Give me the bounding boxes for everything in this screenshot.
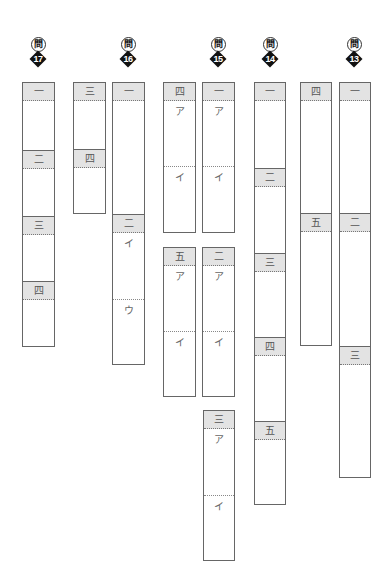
sub-label: ア bbox=[164, 266, 195, 283]
question-badge-15: 問 15 bbox=[206, 37, 230, 69]
section-label: 五 bbox=[301, 214, 331, 232]
answer-subbox-q15-5-i[interactable]: イ bbox=[164, 331, 195, 397]
answer-subbox-q16-2-u[interactable]: ウ bbox=[113, 299, 144, 366]
sub-label: ウ bbox=[113, 300, 144, 317]
question-badge-14: 問 14 bbox=[258, 37, 282, 69]
question-badge-13: 問 13 bbox=[342, 37, 366, 69]
answer-subbox-q15-5-a[interactable]: ア bbox=[164, 266, 195, 330]
diamond-icon: 14 bbox=[262, 51, 278, 67]
section-label: 二 bbox=[23, 151, 54, 169]
answer-subbox-q15-1-a[interactable]: ア bbox=[203, 101, 234, 165]
question-number: 17 bbox=[30, 51, 46, 67]
answer-box-q13-1[interactable]: 一 bbox=[340, 83, 370, 213]
answer-box-q14-2[interactable]: 二 bbox=[255, 168, 285, 254]
answer-subbox-q15-3-i[interactable]: イ bbox=[204, 495, 234, 561]
section-label: 一 bbox=[340, 83, 370, 101]
answer-column-q15-1: 一 ア イ bbox=[202, 82, 235, 233]
answer-column-q16b: 一 二 イ ウ bbox=[112, 82, 145, 365]
section-label: 四 bbox=[301, 83, 331, 101]
section-label: 二 bbox=[255, 169, 285, 187]
answer-box-q14-5[interactable]: 五 bbox=[255, 421, 285, 505]
section-label: 五 bbox=[255, 422, 285, 440]
question-prefix: 問 bbox=[263, 37, 278, 52]
answer-box-q17-2[interactable]: 二 bbox=[23, 150, 54, 217]
section-label: 四 bbox=[74, 150, 105, 168]
question-prefix: 問 bbox=[121, 37, 136, 52]
answer-column-q13a: 四 五 bbox=[300, 82, 332, 346]
answer-box-q15-4[interactable]: 四 ア イ bbox=[164, 83, 195, 232]
question-number: 13 bbox=[346, 51, 362, 67]
answer-column-q14: 一 二 三 四 五 bbox=[254, 82, 286, 505]
sub-label: イ bbox=[164, 167, 195, 184]
answer-box-q16-2[interactable]: 二 イ ウ bbox=[113, 214, 144, 365]
sub-label: イ bbox=[203, 332, 234, 349]
section-label: 一 bbox=[203, 83, 234, 101]
question-prefix: 問 bbox=[31, 37, 46, 52]
question-prefix: 問 bbox=[347, 37, 362, 52]
diamond-icon: 17 bbox=[30, 51, 46, 67]
answer-box-q13-5[interactable]: 五 bbox=[301, 213, 331, 346]
section-label: 四 bbox=[255, 338, 285, 356]
answer-box-q13-2[interactable]: 二 bbox=[340, 213, 370, 347]
section-label: 三 bbox=[204, 411, 234, 429]
sub-label: ア bbox=[204, 429, 234, 446]
section-label: 三 bbox=[74, 83, 105, 101]
answer-column-q15-3: 三 ア イ bbox=[203, 410, 235, 561]
answer-box-q14-4[interactable]: 四 bbox=[255, 337, 285, 422]
answer-subbox-q15-4-i[interactable]: イ bbox=[164, 166, 195, 233]
answer-column-q15-5: 五 ア イ bbox=[163, 247, 196, 397]
question-number: 16 bbox=[120, 51, 136, 67]
sub-label: イ bbox=[164, 332, 195, 349]
answer-box-q14-3[interactable]: 三 bbox=[255, 253, 285, 338]
diamond-icon: 16 bbox=[120, 51, 136, 67]
section-label: 三 bbox=[23, 217, 54, 235]
answer-subbox-q15-1-i[interactable]: イ bbox=[203, 166, 234, 233]
answer-box-q17-1[interactable]: 一 bbox=[23, 83, 54, 150]
section-label: 二 bbox=[113, 215, 144, 233]
section-label: 一 bbox=[255, 83, 285, 101]
answer-box-q15-1[interactable]: 一 ア イ bbox=[203, 83, 234, 232]
question-number: 15 bbox=[210, 51, 226, 67]
section-label: 三 bbox=[255, 254, 285, 272]
answer-subbox-q15-2-i[interactable]: イ bbox=[203, 331, 234, 397]
answer-column-q17: 一 二 三 四 bbox=[22, 82, 55, 347]
section-label: 三 bbox=[340, 347, 370, 365]
sub-label: ア bbox=[203, 266, 234, 283]
answer-column-q15-4: 四 ア イ bbox=[163, 82, 196, 233]
question-number: 14 bbox=[262, 51, 278, 67]
answer-box-q17-4[interactable]: 四 bbox=[23, 281, 54, 347]
question-badge-16: 問 16 bbox=[116, 37, 140, 69]
section-label: 四 bbox=[23, 282, 54, 300]
diamond-icon: 15 bbox=[210, 51, 226, 67]
question-prefix: 問 bbox=[211, 37, 226, 52]
answer-box-q16-3[interactable]: 三 bbox=[74, 83, 105, 149]
diamond-icon: 13 bbox=[346, 51, 362, 67]
section-label: 四 bbox=[164, 83, 195, 101]
answer-box-q17-3[interactable]: 三 bbox=[23, 216, 54, 282]
answer-box-q15-3[interactable]: 三 ア イ bbox=[204, 411, 234, 560]
section-label: 五 bbox=[164, 248, 195, 266]
sub-label: イ bbox=[203, 167, 234, 184]
answer-box-q16-4[interactable]: 四 bbox=[74, 149, 105, 214]
answer-subbox-q15-3-a[interactable]: ア bbox=[204, 429, 234, 493]
answer-box-q14-1[interactable]: 一 bbox=[255, 83, 285, 168]
section-label: 一 bbox=[23, 83, 54, 101]
section-label: 一 bbox=[113, 83, 144, 101]
answer-box-q15-5[interactable]: 五 ア イ bbox=[164, 248, 195, 396]
sub-label: ア bbox=[164, 101, 195, 118]
answer-box-q13-3[interactable]: 三 bbox=[340, 346, 370, 478]
answer-box-q13-4[interactable]: 四 bbox=[301, 83, 331, 213]
sub-label: ア bbox=[203, 101, 234, 118]
answer-column-q16a: 三 四 bbox=[73, 82, 106, 214]
answer-subbox-q15-4-a[interactable]: ア bbox=[164, 101, 195, 165]
section-label: 二 bbox=[203, 248, 234, 266]
sub-label: イ bbox=[113, 233, 144, 250]
answer-subbox-q16-2-i[interactable]: イ bbox=[113, 233, 144, 297]
answer-box-q16-1[interactable]: 一 bbox=[113, 83, 144, 214]
answer-subbox-q15-2-a[interactable]: ア bbox=[203, 266, 234, 330]
answer-column-q13b: 一 二 三 bbox=[339, 82, 371, 478]
sub-label: イ bbox=[204, 496, 234, 513]
question-badge-17: 問 17 bbox=[26, 37, 50, 69]
answer-box-q15-2[interactable]: 二 ア イ bbox=[203, 248, 234, 396]
answer-column-q15-2: 二 ア イ bbox=[202, 247, 235, 397]
